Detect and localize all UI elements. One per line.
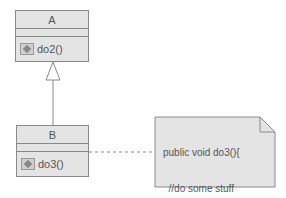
note-text: public void do3(){ //do some stuff do2()…	[163, 123, 240, 198]
class-b-name: B	[17, 126, 88, 144]
class-a-name: A	[16, 11, 88, 29]
class-a-operation: do2()	[16, 37, 88, 61]
class-b-operation-label: do3()	[38, 158, 64, 170]
note-line: //do some stuff	[163, 183, 240, 195]
class-a-attributes	[16, 29, 88, 37]
class-a[interactable]: A do2()	[15, 10, 89, 62]
note-line: public void do3(){	[163, 147, 240, 159]
class-b[interactable]: B do3()	[16, 125, 89, 177]
class-b-operation: do3()	[17, 152, 88, 176]
class-b-attributes	[17, 144, 88, 152]
class-a-operation-label: do2()	[37, 43, 63, 55]
method-icon	[20, 43, 34, 55]
method-icon	[21, 158, 35, 170]
generalization-arrowhead-icon	[46, 62, 60, 80]
